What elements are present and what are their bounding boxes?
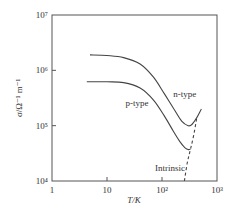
p-type-label: p-type: [125, 98, 148, 108]
y-axis-ticks: 10⁴10⁵10⁶10⁷: [36, 10, 56, 186]
n-type-label: n-type: [173, 89, 196, 99]
x-tick-label: 10³: [211, 185, 223, 195]
x-tick-label: 1: [50, 185, 55, 195]
series-group: [87, 55, 202, 181]
curve-labels: n-typep-typeIntrinsic: [125, 89, 196, 173]
x-tick-label: 10²: [156, 185, 168, 195]
y-axis-label: σ/Ω⁻¹ m⁻¹: [14, 79, 24, 117]
x-tick-label: 10: [103, 185, 113, 195]
conductivity-chart: 11010²10³ 10⁴10⁵10⁶10⁷ n-typep-typeIntri…: [0, 0, 237, 215]
x-axis-label: T/K: [127, 195, 142, 205]
y-tick-label: 10⁵: [36, 121, 48, 131]
y-tick-label: 10⁶: [36, 65, 48, 75]
intrinsic-label: Intrinsic: [155, 163, 185, 173]
y-tick-label: 10⁴: [36, 176, 48, 186]
x-axis-ticks: 11010²10³: [50, 177, 223, 195]
y-tick-label: 10⁷: [36, 10, 48, 20]
